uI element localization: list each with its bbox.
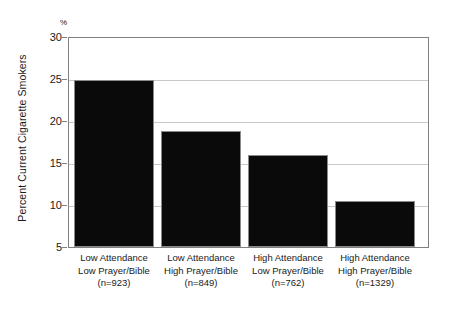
x-category-sample-size: (n=923) [68, 277, 160, 290]
x-category-line1: Low Attendance [155, 252, 247, 265]
y-axis-unit-symbol: % [60, 19, 67, 27]
x-category-label: Low Attendance High Prayer/Bible (n=849) [155, 252, 247, 290]
y-tick-mark [62, 79, 67, 80]
x-category-sample-size: (n=762) [242, 277, 334, 290]
x-category-line1: Low Attendance [68, 252, 160, 265]
x-category-line2: High Prayer/Bible [329, 265, 421, 278]
bar-low-attendance-low-prayer [74, 80, 154, 247]
x-category-label: High Attendance High Prayer/Bible (n=132… [329, 252, 421, 290]
y-axis-tick-marks [0, 37, 68, 248]
y-tick-mark [62, 121, 67, 122]
x-category-line1: High Attendance [329, 252, 421, 265]
bar-high-attendance-low-prayer [248, 155, 328, 247]
x-category-line2: Low Prayer/Bible [242, 265, 334, 278]
bars-layer [69, 38, 428, 247]
x-category-sample-size: (n=1329) [329, 277, 421, 290]
x-category-label: High Attendance Low Prayer/Bible (n=762) [242, 252, 334, 290]
bar-low-attendance-high-prayer [161, 131, 241, 247]
x-category-label: Low Attendance Low Prayer/Bible (n=923) [68, 252, 160, 290]
x-category-line2: Low Prayer/Bible [68, 265, 160, 278]
x-category-line1: High Attendance [242, 252, 334, 265]
y-tick-mark [62, 163, 67, 164]
x-axis-category-labels: Low Attendance Low Prayer/Bible (n=923) … [68, 252, 429, 302]
y-tick-mark [62, 205, 67, 206]
bar-chart: Percent Current Cigarette Smokers % 30 2… [0, 0, 452, 312]
x-category-line2: High Prayer/Bible [155, 265, 247, 278]
x-category-sample-size: (n=849) [155, 277, 247, 290]
y-tick-mark [62, 37, 67, 38]
bar-high-attendance-high-prayer [335, 201, 415, 247]
y-tick-mark [62, 247, 67, 248]
plot-area [68, 37, 429, 248]
